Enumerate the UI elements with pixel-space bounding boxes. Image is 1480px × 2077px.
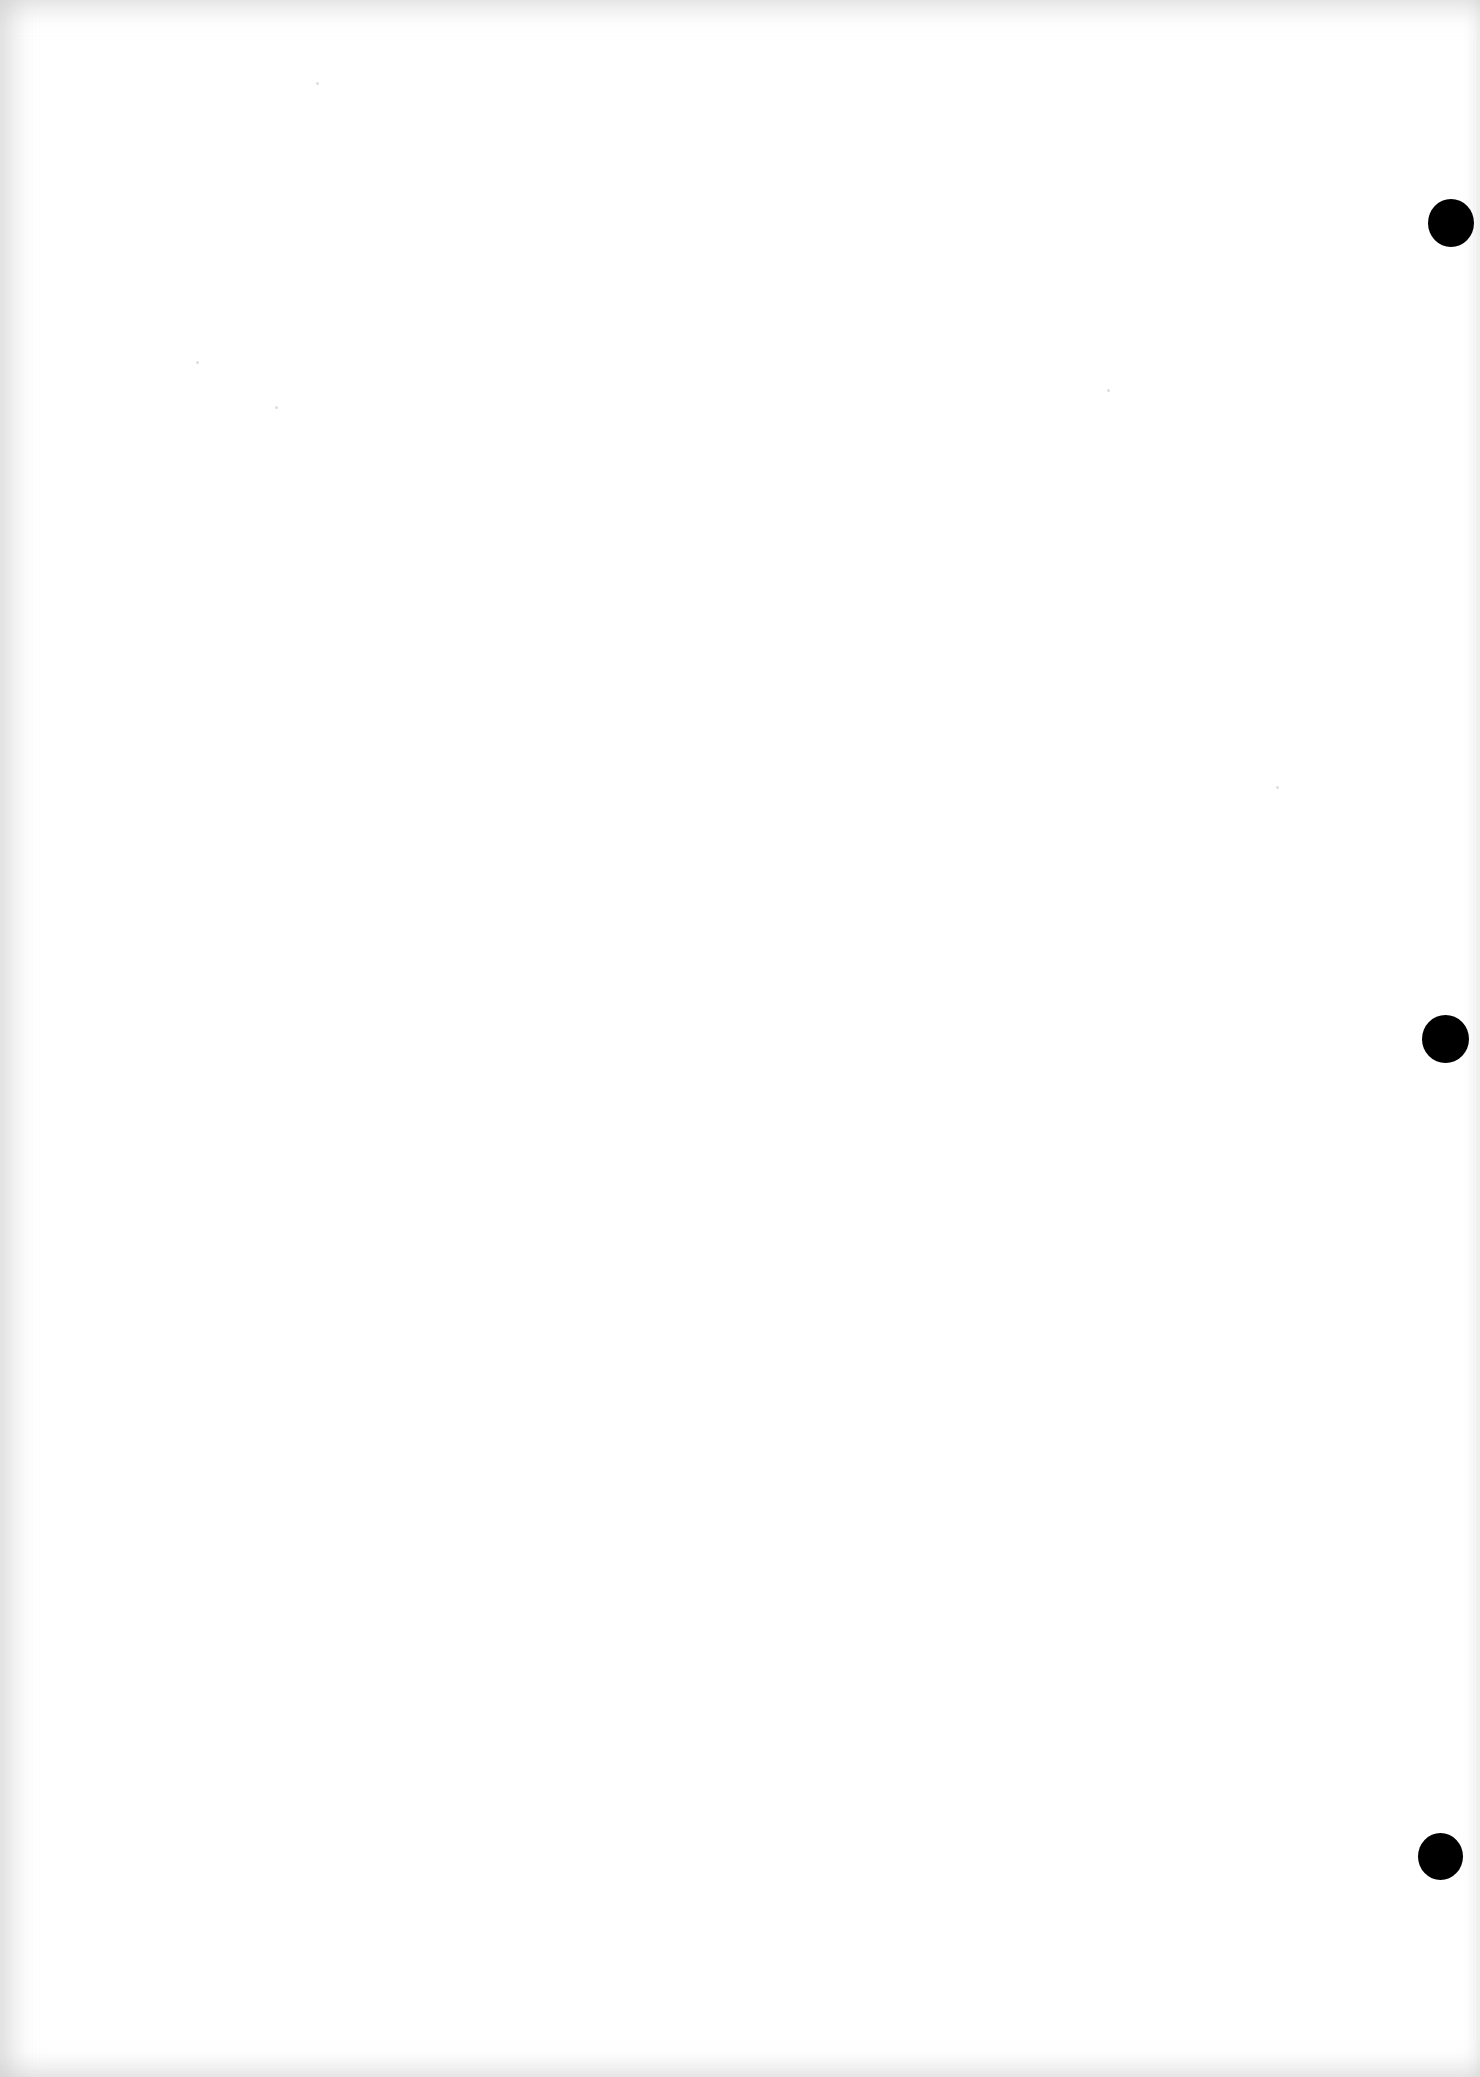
scan-speck — [1276, 786, 1279, 789]
scan-speck — [316, 82, 319, 85]
scan-speck — [275, 406, 278, 409]
punch-hole-top — [1428, 199, 1474, 247]
punch-hole-middle — [1422, 1015, 1469, 1063]
scan-speck — [196, 361, 199, 364]
scan-speck — [1107, 389, 1110, 392]
blank-page — [0, 0, 1480, 2077]
punch-hole-bottom — [1418, 1833, 1463, 1880]
